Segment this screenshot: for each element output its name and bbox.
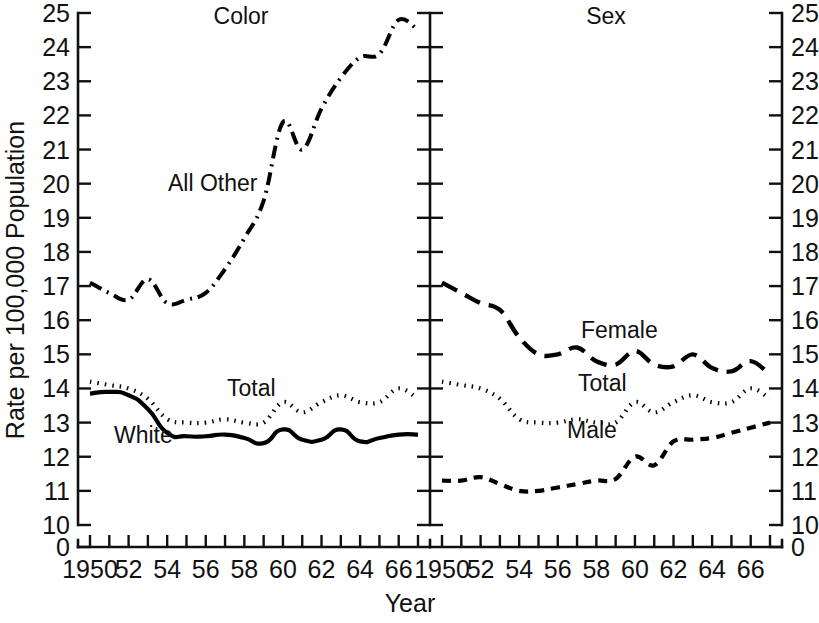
y-tick-label-right: 18 [791, 238, 819, 266]
y-tick-label-right: 16 [791, 306, 819, 334]
y-tick-label-left: 10 [42, 511, 70, 539]
y-axis-title: Rate per 100,000 Population [1, 121, 29, 439]
y-tick-label-left: 16 [42, 306, 70, 334]
y-tick-label-right: 10 [791, 511, 819, 539]
x-tick-label: 64 [346, 555, 374, 583]
panel-title-sex: Sex [586, 3, 626, 29]
y-tick-label-right: 21 [791, 136, 819, 164]
x-tick-label: 54 [505, 555, 533, 583]
y-tick-label-right: 23 [791, 67, 819, 95]
y-tick-label-left: 15 [42, 340, 70, 368]
x-tick-label: 56 [192, 555, 220, 583]
y-tick-label-left: 24 [42, 33, 70, 61]
x-axis-title: Year [385, 589, 436, 617]
x-tick-label: 52 [115, 555, 143, 583]
x-ticks-right [442, 535, 770, 547]
series-line-all-other [90, 19, 418, 305]
y-tick-label-left: 20 [42, 170, 70, 198]
x-tick-label: 66 [385, 555, 413, 583]
y-ticks-right [769, 13, 782, 547]
y-tick-label-left: 25 [42, 0, 70, 27]
y-tick-label-right: 12 [791, 443, 819, 471]
y-tick-label-right: 11 [791, 477, 817, 505]
x-tick-label: 54 [153, 555, 181, 583]
y-axis-tick-labels-right: 010111213141516171819202122232425 [791, 0, 819, 561]
y-tick-label-left: 13 [42, 409, 70, 437]
series-label-total-left: Total [227, 375, 276, 401]
x-tick-label: 62 [308, 555, 336, 583]
series-label-total-right: Total [578, 370, 627, 396]
x-tick-label: 60 [621, 555, 649, 583]
y-tick-label-left: 12 [42, 443, 70, 471]
y-tick-label-left: 19 [42, 204, 70, 232]
chart-figure: 010111213141516171819202122232425 010111… [0, 0, 819, 623]
y-tick-label-left: 18 [42, 238, 70, 266]
series-label-all-other: All Other [168, 170, 258, 196]
series-label-male: Male [567, 417, 617, 443]
x-tick-label: 58 [582, 555, 610, 583]
y-tick-label-left: 14 [42, 374, 70, 402]
y-tick-label-left: 22 [42, 101, 70, 129]
y-tick-label-right: 13 [791, 409, 819, 437]
y-tick-label-right: 17 [791, 272, 819, 300]
x-tick-label: 66 [737, 555, 765, 583]
y-tick-label-right: 24 [791, 33, 819, 61]
y-tick-label-left: 21 [42, 136, 70, 164]
series-label-white: White [114, 422, 173, 448]
axes-group [78, 13, 782, 547]
panel-title-color: Color [214, 3, 269, 29]
x-tick-label: 58 [230, 555, 258, 583]
y-tick-label-right: 25 [791, 0, 819, 27]
y-tick-label-right: 20 [791, 170, 819, 198]
y-tick-label-right: 22 [791, 101, 819, 129]
y-axis-tick-labels-left: 010111213141516171819202122232425 [42, 0, 70, 561]
y-tick-label-left: 23 [42, 67, 70, 95]
series-label-female: Female [581, 317, 658, 343]
x-tick-label: 1950 [62, 555, 118, 583]
y-tick-label-right: 19 [791, 204, 819, 232]
y-tick-label-left: 17 [42, 272, 70, 300]
x-axis-tick-labels-right: 19505254565860626466 [414, 555, 764, 583]
x-tick-label: 62 [660, 555, 688, 583]
x-tick-label: 64 [698, 555, 726, 583]
x-tick-label: 60 [269, 555, 297, 583]
x-tick-label: 56 [544, 555, 572, 583]
y-tick-label-left: 11 [44, 477, 70, 505]
x-tick-label: 52 [467, 555, 495, 583]
x-tick-label: 1950 [414, 555, 470, 583]
line-chart-svg: 010111213141516171819202122232425 010111… [0, 0, 819, 623]
y-tick-label-right: 14 [791, 374, 819, 402]
y-tick-label-right: 15 [791, 340, 819, 368]
x-axis-tick-labels-left: 19505254565860626466 [62, 555, 412, 583]
y-ticks-left [78, 13, 91, 547]
x-ticks-left [90, 535, 418, 547]
